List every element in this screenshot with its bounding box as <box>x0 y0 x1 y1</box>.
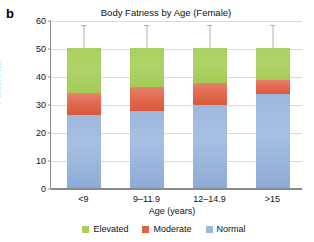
legend-label: Elevated <box>93 224 128 234</box>
bar-series: <99–11.912–14.9>15 <box>52 21 302 188</box>
x-tick-label-2: 9–11.9 <box>117 194 177 204</box>
bar-group-1[interactable]: <9 <box>67 21 101 188</box>
x-tick-label-3: 12–14.9 <box>180 194 240 204</box>
bar-group-2[interactable]: 9–11.9 <box>130 21 164 188</box>
bar-stack-3[interactable] <box>193 48 227 188</box>
legend-swatch-icon-elevated <box>82 226 89 233</box>
legend-label: Moderate <box>153 224 191 234</box>
bar-stack-2[interactable] <box>130 48 164 188</box>
error-bar-cap-3 <box>207 25 212 26</box>
y-tick-mark-0 <box>48 189 51 190</box>
y-tick-label-20: 20 <box>36 128 46 138</box>
legend-item-normal[interactable]: Normal <box>206 224 246 234</box>
legend-item-elevated[interactable]: Elevated <box>82 224 128 234</box>
bar-stack-1[interactable] <box>67 48 101 188</box>
bar-segment-normal-4[interactable] <box>256 94 290 188</box>
y-tick-label-40: 40 <box>36 72 46 82</box>
x-tick-label-1: <9 <box>54 194 114 204</box>
y-tick-label-60: 60 <box>36 16 46 26</box>
legend-swatch-icon-moderate <box>142 226 149 233</box>
bar-stack-4[interactable] <box>256 48 290 188</box>
bar-segment-moderate-2[interactable] <box>130 87 164 111</box>
y-tick-mark-30 <box>48 105 51 106</box>
legend-swatch-icon-normal <box>206 226 213 233</box>
bar-segment-elevated-1[interactable] <box>67 48 101 93</box>
bar-segment-moderate-1[interactable] <box>67 93 101 115</box>
y-tick-label-10: 10 <box>36 156 46 166</box>
y-tick-label-50: 50 <box>36 44 46 54</box>
error-bar-cap-1 <box>81 25 86 26</box>
legend-item-moderate[interactable]: Moderate <box>142 224 191 234</box>
bar-segment-moderate-3[interactable] <box>193 83 227 105</box>
chart-legend: ElevatedModerateNormal <box>0 224 314 234</box>
gridline-0 <box>51 189 302 190</box>
y-tick-mark-20 <box>48 133 51 134</box>
chart-figure: b Body Fatness by Age (Female) Percent f… <box>0 0 314 242</box>
bar-group-4[interactable]: >15 <box>256 21 290 188</box>
y-axis-title: Percent fat <box>0 61 2 105</box>
legend-label: Normal <box>217 224 246 234</box>
bar-segment-normal-2[interactable] <box>130 111 164 188</box>
bar-segment-moderate-4[interactable] <box>256 80 290 94</box>
error-bar-cap-4 <box>270 25 275 26</box>
bar-segment-normal-1[interactable] <box>67 115 101 188</box>
x-tick-label-4: >15 <box>243 194 303 204</box>
bar-segment-elevated-2[interactable] <box>130 48 164 87</box>
plot-area: 0102030405060 <99–11.912–14.9>15 <box>50 21 302 189</box>
y-tick-mark-60 <box>48 21 51 22</box>
bar-group-3[interactable]: 12–14.9 <box>193 21 227 188</box>
y-tick-label-0: 0 <box>41 184 46 194</box>
y-tick-label-30: 30 <box>36 100 46 110</box>
error-bar-1 <box>83 25 84 49</box>
error-bar-4 <box>272 25 273 49</box>
bar-segment-elevated-3[interactable] <box>193 48 227 83</box>
error-bar-cap-2 <box>144 25 149 26</box>
error-bar-3 <box>209 25 210 49</box>
x-axis-title: Age (years) <box>0 206 314 216</box>
y-tick-mark-10 <box>48 161 51 162</box>
bar-segment-normal-3[interactable] <box>193 105 227 188</box>
y-tick-mark-50 <box>48 49 51 50</box>
y-tick-mark-40 <box>48 77 51 78</box>
chart-title: Body Fatness by Age (Female) <box>0 7 314 18</box>
error-bar-2 <box>146 25 147 49</box>
bar-segment-elevated-4[interactable] <box>256 48 290 80</box>
